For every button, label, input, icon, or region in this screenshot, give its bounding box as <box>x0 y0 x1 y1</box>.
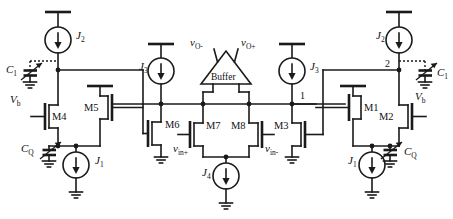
capacitor-C1-right <box>399 61 437 88</box>
source-label-J2-right: J2 <box>376 29 385 44</box>
source-label-J1-right: J1 <box>348 154 357 169</box>
output-label-vo-minus: vO- <box>190 36 203 51</box>
transistor-label-M8: M8 <box>231 120 246 131</box>
current-source-J2-left <box>45 27 71 70</box>
transistor-label-M2: M2 <box>379 111 394 122</box>
capacitor-label-C1-right: C1 <box>437 66 448 81</box>
current-source-J1-right <box>359 146 385 198</box>
capacitor-C1-left <box>21 61 58 88</box>
current-source-J1-left <box>63 146 89 198</box>
capacitor-label-CQ-right: CQ <box>404 145 417 160</box>
supply-rail-right <box>386 12 412 27</box>
transistor-label-M4: M4 <box>52 111 67 122</box>
capacitor-label-C1-left: C1 <box>6 63 17 78</box>
buffer-label: Buffer <box>211 72 236 82</box>
source-label-J1-left: J1 <box>95 154 104 169</box>
circuit-schematic: J2 C1 M4 Vb <box>0 0 453 219</box>
source-label-J3-left: J3 <box>139 60 148 75</box>
transistor-label-M7: M7 <box>206 120 221 131</box>
input-label-vin-plus: vin+ <box>173 142 188 157</box>
transistor-label-M3: M3 <box>274 120 289 131</box>
transistor-label-M1: M1 <box>364 102 379 113</box>
supply-rail-center-left <box>148 44 174 58</box>
output-label-vo-plus: vO+ <box>241 36 256 51</box>
supply-rail-left <box>45 12 71 27</box>
bias-label-Vb-left: Vb <box>10 93 21 108</box>
transistor-label-M6: M6 <box>165 119 180 130</box>
bias-label-Vb-right: Vb <box>415 90 426 105</box>
supply-rail-center-right <box>279 44 305 58</box>
current-source-J4 <box>213 157 239 209</box>
transistor-M6 <box>143 104 168 163</box>
input-label-vin-minus: vin- <box>265 142 279 157</box>
transistor-label-M5: M5 <box>84 102 99 113</box>
source-label-J2-left: J2 <box>76 29 85 44</box>
node-number-2: 2 <box>385 58 390 69</box>
source-label-J4: J4 <box>202 166 211 181</box>
source-label-J3-right: J3 <box>310 60 319 75</box>
current-source-J3-left <box>148 58 174 104</box>
capacitor-label-CQ-left: CQ <box>21 142 34 157</box>
transistor-M5 <box>87 86 143 146</box>
node-number-1: 1 <box>300 90 305 101</box>
